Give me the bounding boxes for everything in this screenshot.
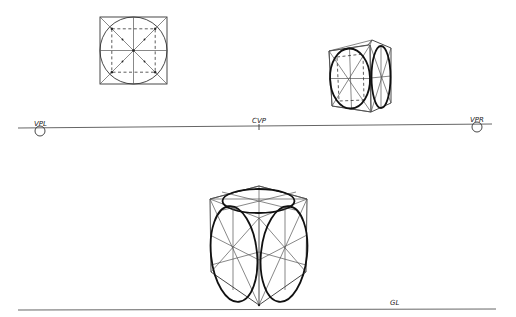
ground-line — [18, 309, 496, 310]
gl-label: GL — [390, 299, 399, 307]
small-perspective-cube — [329, 40, 391, 112]
orthographic-square — [100, 17, 167, 84]
drawing-canvas: VPL CVP VPR GL — [0, 0, 516, 317]
vpr-label: VPR — [470, 116, 484, 124]
large-perspective-cube — [206, 186, 312, 306]
vpl-label: VPL — [34, 120, 47, 128]
center-vanishing-point: CVP — [252, 117, 267, 130]
cvp-label: CVP — [252, 117, 267, 125]
